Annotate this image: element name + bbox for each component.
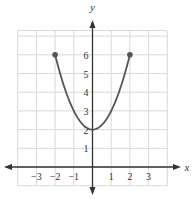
y-tick-label: 3	[84, 106, 89, 117]
x-axis-right-arrow-icon	[173, 164, 181, 170]
endpoint-dot	[127, 52, 133, 58]
x-axis-label: x	[184, 161, 190, 173]
y-tick-label: 6	[84, 50, 89, 61]
y-axis-down-arrow-icon	[90, 187, 96, 195]
endpoint-dot	[52, 52, 58, 58]
y-axis-label: y	[89, 1, 95, 13]
y-tick-label: 1	[84, 143, 89, 154]
x-tick-label: −1	[68, 171, 79, 182]
x-axis-left-arrow-icon	[4, 164, 12, 170]
y-axis-up-arrow-icon	[90, 20, 96, 28]
y-tick-label: 4	[84, 87, 89, 98]
x-tick-label: 2	[127, 171, 132, 182]
x-tick-label: 1	[109, 171, 114, 182]
x-tick-label: 3	[146, 171, 151, 182]
graph: xy−3−2−1123123456	[0, 0, 194, 199]
x-tick-label: −3	[31, 171, 42, 182]
x-tick-label: −2	[50, 171, 61, 182]
y-tick-label: 5	[84, 69, 89, 80]
